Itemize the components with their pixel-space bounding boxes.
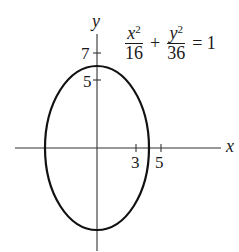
x-tick-label-3: 3 — [131, 154, 140, 171]
ellipse-diagram: y x 7 5 3 5 x2 16 + y2 36 = 1 — [0, 0, 239, 252]
denominator-36: 36 — [167, 44, 185, 64]
x-tick-label-5: 5 — [155, 154, 164, 171]
fraction-x: x2 16 — [125, 24, 143, 64]
y-axis-label: y — [92, 12, 100, 30]
fraction-y: y2 36 — [167, 24, 185, 64]
equals-one: = 1 — [192, 33, 216, 54]
plus-sign: + — [150, 33, 160, 54]
y-tick-label-7: 7 — [81, 45, 90, 62]
y-tick-label-5: 5 — [83, 73, 92, 90]
denominator-16: 16 — [125, 44, 143, 64]
exponent-x: 2 — [135, 23, 141, 35]
ellipse-equation: x2 16 + y2 36 = 1 — [122, 24, 220, 64]
x-axis-label: x — [226, 137, 234, 155]
exponent-y: 2 — [177, 23, 183, 35]
